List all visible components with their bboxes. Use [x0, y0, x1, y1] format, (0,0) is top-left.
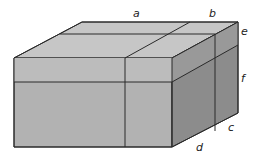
label-d: d	[196, 141, 204, 154]
box-diagram: a b e f c d	[0, 0, 260, 164]
label-c: c	[228, 121, 234, 134]
label-a: a	[133, 7, 140, 20]
label-e: e	[241, 25, 248, 38]
front-top-slab	[14, 58, 172, 82]
label-b: b	[209, 7, 216, 20]
label-f: f	[241, 72, 247, 85]
